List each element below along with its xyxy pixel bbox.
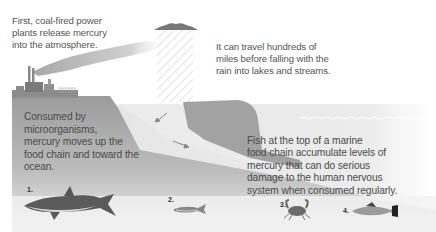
label-small-fish-number: 2. [168,196,174,203]
caption-step1: First, coal-fired power plants release m… [12,15,107,51]
caption-step3: Consumed by microorganisms, mercury move… [24,111,139,174]
label-trout-number: 4. [343,207,349,214]
caption-step4: Fish at the top of a marine food chain a… [247,135,397,197]
label-crab-number: 3. [280,201,286,208]
rain-cloud [154,23,198,102]
label-shark-number: 1. [27,186,33,193]
caption-step2: It can travel hundreds of miles before f… [216,41,331,77]
